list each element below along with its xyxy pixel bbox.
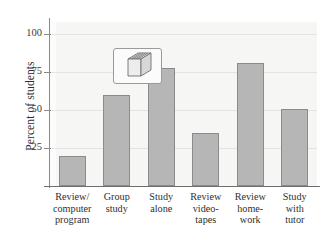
- x-tick-label-6: Studywithtutor: [273, 191, 318, 226]
- x-label-line: program: [50, 214, 95, 226]
- x-label-line: Study: [273, 191, 318, 203]
- y-tick-mark-100: [44, 34, 51, 35]
- x-label-line: home-: [228, 203, 273, 215]
- x-label-line: Review: [228, 191, 273, 203]
- x-label-line: computer: [50, 203, 95, 215]
- x-label-line: Review/: [50, 191, 95, 203]
- gridline-75: [50, 72, 317, 73]
- x-tick-label-5: Reviewhome-work: [228, 191, 273, 226]
- y-tick-mark-50: [44, 110, 51, 111]
- x-label-line: study: [95, 203, 140, 215]
- x-tick-label-2: Groupstudy: [95, 191, 140, 214]
- gridline-25: [50, 148, 317, 149]
- x-tick-label-1: Review/computerprogram: [50, 191, 95, 226]
- y-axis-line: [49, 18, 50, 188]
- x-tick-label-3: Studyalone: [139, 191, 184, 214]
- gridline-50: [50, 110, 317, 111]
- x-label-line: Study: [139, 191, 184, 203]
- bar-2: [103, 95, 130, 186]
- y-tick-mark-25: [44, 148, 51, 149]
- y-tick-label-wrap-50: 50: [6, 104, 42, 116]
- plot-area: [50, 22, 317, 186]
- y-tick-label-75: 75: [12, 66, 42, 77]
- stack-of-books-icon: [113, 48, 162, 84]
- x-label-line: alone: [139, 203, 184, 215]
- y-tick-label-25: 25: [12, 142, 42, 153]
- bar-4: [192, 133, 219, 186]
- plot-left-margin: [50, 22, 56, 186]
- y-tick-mark-75: [44, 72, 51, 73]
- bar-3: [148, 68, 175, 186]
- x-label-line: Group: [95, 191, 140, 203]
- y-tick-label-50: 50: [12, 104, 42, 115]
- x-label-line: work: [228, 214, 273, 226]
- bar-1: [59, 156, 86, 186]
- y-tick-label-wrap-25: 25: [6, 142, 42, 154]
- x-label-line: tapes: [184, 214, 229, 226]
- x-tick-label-4: Reviewvideo-tapes: [184, 191, 229, 226]
- gridline-100: [50, 34, 317, 35]
- y-tick-label-wrap-100: 100: [6, 28, 42, 40]
- y-tick-label-wrap-75: 75: [6, 66, 42, 78]
- stack-of-books-glyph: [121, 52, 155, 81]
- bar-chart-figure: Percent of students 255075100 Review/com…: [0, 0, 323, 245]
- x-label-line: video-: [184, 203, 229, 215]
- y-tick-label-100: 100: [12, 28, 42, 39]
- bar-6: [281, 109, 308, 186]
- x-label-line: with: [273, 203, 318, 215]
- bar-5: [237, 63, 264, 186]
- x-label-line: Review: [184, 191, 229, 203]
- x-axis-line: [44, 186, 320, 187]
- x-label-line: tutor: [273, 214, 318, 226]
